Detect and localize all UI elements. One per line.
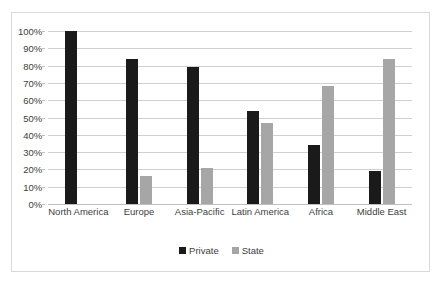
bar-group xyxy=(351,31,412,204)
y-axis-tick-label: 40% xyxy=(23,129,42,140)
legend-item[interactable]: Private xyxy=(179,245,219,256)
y-axis-tick-label: 0% xyxy=(28,199,42,210)
plot-area xyxy=(48,31,412,204)
y-axis-tick-label: 10% xyxy=(23,181,42,192)
y-axis-tick-mark xyxy=(42,169,45,170)
legend-label: State xyxy=(242,245,264,256)
x-axis-label: Europe xyxy=(109,206,170,218)
y-axis-tick-mark xyxy=(42,100,45,101)
bar[interactable] xyxy=(308,145,320,204)
y-axis-tick-mark xyxy=(42,83,45,84)
chart-legend: PrivateState xyxy=(12,245,431,256)
y-axis-tick-mark xyxy=(42,66,45,67)
legend-swatch-icon xyxy=(232,247,239,254)
y-axis-tick-mark xyxy=(42,118,45,119)
y-axis-tick-label: 90% xyxy=(23,43,42,54)
chart-frame: 0%10%20%30%40%50%60%70%80%90%100% North … xyxy=(11,12,430,272)
legend-label: Private xyxy=(189,245,219,256)
bar[interactable] xyxy=(322,86,334,204)
x-axis-label: Middle East xyxy=(351,206,412,218)
y-axis-tick-label: 30% xyxy=(23,147,42,158)
bar[interactable] xyxy=(201,168,213,204)
y-axis-tick-label: 80% xyxy=(23,60,42,71)
gridline xyxy=(48,204,412,205)
bar[interactable] xyxy=(247,111,259,204)
y-axis-tick-label: 70% xyxy=(23,77,42,88)
bar[interactable] xyxy=(369,171,381,204)
bar[interactable] xyxy=(187,67,199,204)
y-axis-tick-mark xyxy=(42,48,45,49)
y-axis: 0%10%20%30%40%50%60%70%80%90%100% xyxy=(12,31,45,204)
bar-group xyxy=(230,31,291,204)
y-axis-tick-mark xyxy=(42,187,45,188)
bar[interactable] xyxy=(126,59,138,204)
bar-group xyxy=(109,31,170,204)
y-axis-tick-label: 100% xyxy=(18,26,42,37)
y-axis-tick-label: 60% xyxy=(23,95,42,106)
bar[interactable] xyxy=(261,123,273,204)
y-axis-tick-mark xyxy=(42,135,45,136)
bar[interactable] xyxy=(65,31,77,204)
x-axis-label: Latin America xyxy=(230,206,291,218)
y-axis-tick-label: 50% xyxy=(23,112,42,123)
bar-group xyxy=(48,31,109,204)
y-axis-tick-label: 20% xyxy=(23,164,42,175)
x-axis-label: Asia-Pacific xyxy=(169,206,230,218)
bar-group xyxy=(291,31,352,204)
y-axis-tick-mark xyxy=(42,152,45,153)
bar[interactable] xyxy=(383,59,395,204)
x-axis-category-labels: North AmericaEuropeAsia-PacificLatin Ame… xyxy=(48,206,412,240)
bar-group xyxy=(169,31,230,204)
y-axis-tick-mark xyxy=(42,31,45,32)
bar[interactable] xyxy=(140,176,152,204)
y-axis-tick-mark xyxy=(42,204,45,205)
legend-item[interactable]: State xyxy=(232,245,264,256)
legend-swatch-icon xyxy=(179,247,186,254)
x-axis-label: North America xyxy=(48,206,109,218)
x-axis-label: Africa xyxy=(291,206,352,218)
